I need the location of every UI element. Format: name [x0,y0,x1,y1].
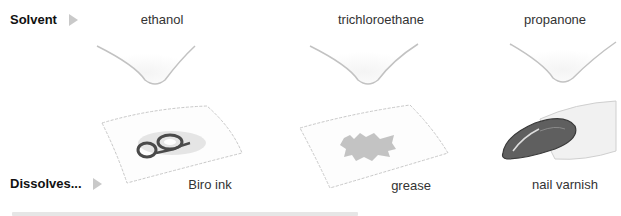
dissolves-label-grease: grease [331,178,491,193]
solvent-label-ethanol: ethanol [82,12,242,27]
dissolves-label-biro-ink: Biro ink [130,177,290,192]
watch-glass-icon [95,40,205,90]
triangle-right-icon [69,14,78,26]
watch-glass-icon [308,40,418,90]
dissolves-row-label: Dissolves... [10,176,82,191]
watch-glass-icon [508,38,618,88]
solvent-label-propanone: propanone [475,12,621,27]
bottom-divider [12,212,358,216]
solvent-label-trichloroethane: trichloroethane [301,12,461,27]
painted-fingernail-icon [495,101,620,171]
solvent-row-label: Solvent [10,12,57,27]
triangle-right-icon [93,178,102,190]
dissolves-label-nail-varnish: nail varnish [485,177,621,192]
